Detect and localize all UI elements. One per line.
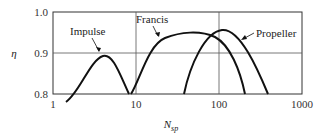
ytick-0.8: 0.8	[34, 88, 48, 100]
x-axis-label: Nsp	[163, 118, 178, 133]
xtick-1000: 1000	[291, 98, 314, 110]
francis-label: Francis	[136, 13, 168, 25]
impulse-label: Impulse	[70, 25, 106, 37]
xtick-100: 100	[211, 98, 228, 110]
propeller-label: Propeller	[256, 27, 297, 39]
francis-curve	[131, 33, 245, 94]
xtick-10: 10	[131, 98, 143, 110]
xtick-1: 1	[50, 98, 56, 110]
propeller-arrowhead	[241, 35, 247, 40]
impulse-curve	[66, 56, 129, 102]
ytick-0.9: 0.9	[34, 47, 48, 59]
efficiency-chart: 1.0 0.9 0.8 η 1 10 100 1000 Nsp Impulse …	[0, 0, 332, 134]
y-axis-label: η	[11, 47, 16, 59]
ytick-1.0: 1.0	[34, 6, 48, 18]
propeller-curve	[184, 30, 268, 94]
impulse-arrowhead	[96, 47, 101, 52]
francis-arrowhead	[155, 32, 160, 37]
